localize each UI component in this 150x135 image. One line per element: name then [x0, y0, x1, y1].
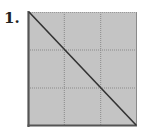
- grid-figure: [0, 0, 150, 135]
